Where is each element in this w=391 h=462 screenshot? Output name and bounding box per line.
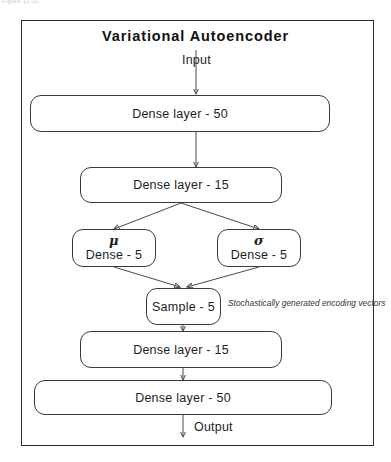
node-sigma[interactable]: σ Dense - 5: [217, 229, 301, 267]
node-label: Dense layer - 15: [133, 343, 229, 357]
node-decoder-dense-50[interactable]: Dense layer - 50: [34, 380, 332, 415]
node-sample[interactable]: Sample - 5: [146, 288, 221, 325]
output-label: Output: [194, 420, 233, 434]
node-label: Dense layer - 15: [133, 178, 229, 192]
diagram-title: Variational Autoencoder: [0, 28, 391, 44]
mu-symbol: μ: [109, 234, 119, 248]
node-label: Sample - 5: [152, 300, 215, 314]
scan-caption-fragment: Figure 11-11: [2, 0, 39, 4]
diagram-canvas: Figure 11-11 Variational Autoencoder Inp…: [0, 0, 391, 462]
node-decoder-dense-15[interactable]: Dense layer - 15: [80, 331, 282, 368]
node-label: Dense layer - 50: [135, 391, 231, 405]
node-encoder-dense-15[interactable]: Dense layer - 15: [80, 167, 282, 203]
sigma-symbol: σ: [254, 234, 264, 248]
input-label: Input: [182, 53, 211, 67]
node-label: Dense layer - 50: [132, 107, 228, 121]
node-encoder-dense-50[interactable]: Dense layer - 50: [30, 95, 330, 132]
node-mu[interactable]: μ Dense - 5: [72, 229, 156, 267]
sample-annotation: Stochastically generated encoding vector…: [228, 298, 385, 308]
node-label: Dense - 5: [86, 248, 142, 262]
node-label: Dense - 5: [231, 248, 287, 262]
